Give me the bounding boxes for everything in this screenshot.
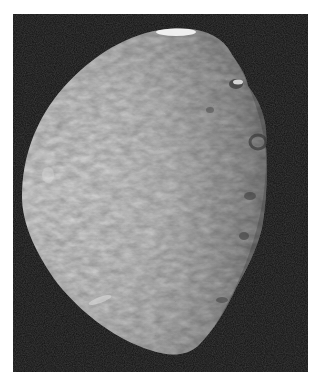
moon-photograph — [13, 14, 308, 372]
moon-svg — [13, 14, 308, 372]
